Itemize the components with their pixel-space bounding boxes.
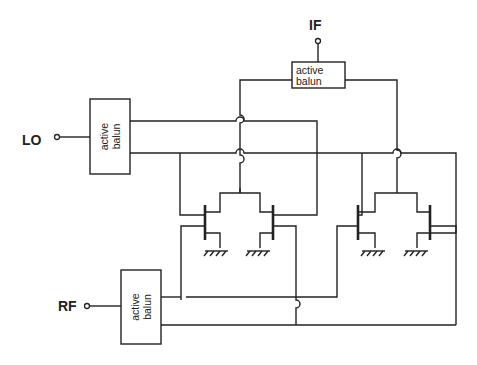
lo-port-label: LO [22, 132, 42, 148]
transistor-pair-right [186, 193, 456, 325]
ground-icon [361, 251, 385, 256]
ground-icon [404, 251, 428, 256]
mixer-schematic: IF active balun LO active balun [0, 0, 477, 365]
if-port-terminal [316, 39, 321, 44]
lo-port-terminal [55, 135, 60, 140]
q1-gate-rf [181, 226, 205, 300]
lo-balun-label-2: balun [110, 124, 122, 150]
rf-balun-label-1: active [129, 293, 141, 321]
rf-port-label: RF [58, 298, 77, 314]
if-output-right [345, 80, 401, 193]
q4-gate-rf [430, 226, 456, 325]
rf-port-terminal [85, 304, 90, 309]
transistor-pair-left [181, 188, 300, 325]
lo-balun-label-1: active [98, 123, 110, 151]
rf-balun-label-2: balun [141, 294, 153, 320]
q2-gate-rf [273, 226, 300, 325]
lo-output-top [130, 117, 317, 215]
ground-icon [204, 251, 228, 256]
if-output-left [240, 80, 292, 193]
lo-to-q1-gate [180, 153, 205, 215]
if-balun-label-2: balun [296, 75, 322, 87]
ground-icon [246, 251, 270, 256]
if-port-label: IF [309, 17, 322, 33]
lo-output-bottom [130, 149, 456, 233]
